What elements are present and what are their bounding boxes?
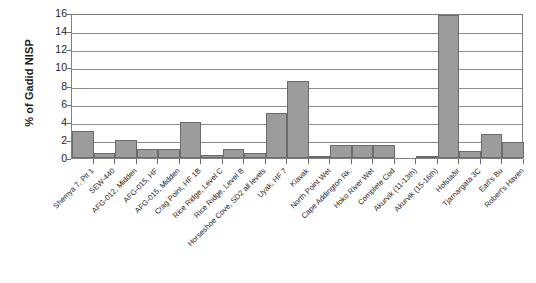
x-tick-mark bbox=[93, 159, 94, 164]
bar bbox=[180, 122, 202, 158]
x-tick-mark bbox=[308, 159, 309, 164]
x-tick-mark bbox=[523, 159, 524, 164]
x-tick-mark bbox=[394, 159, 395, 164]
bar bbox=[115, 140, 137, 158]
bar bbox=[481, 134, 503, 158]
bar bbox=[72, 131, 94, 158]
x-tick-mark bbox=[351, 159, 352, 164]
bar bbox=[502, 142, 524, 158]
bar-chart: % of Gadid NISP 1614121086420 Shemya 7, … bbox=[0, 0, 536, 283]
y-tick-label: 6 bbox=[27, 99, 67, 110]
bar bbox=[94, 153, 116, 158]
bar bbox=[266, 113, 288, 158]
x-tick-mark bbox=[157, 159, 158, 164]
x-tick-mark bbox=[437, 159, 438, 164]
bar bbox=[352, 145, 374, 158]
bars-layer bbox=[72, 15, 522, 158]
x-tick-mark bbox=[114, 159, 115, 164]
bar bbox=[201, 155, 223, 158]
y-tick-label: 12 bbox=[27, 44, 67, 55]
x-tick-mark bbox=[329, 159, 330, 164]
y-tick-label: 0 bbox=[27, 153, 67, 164]
x-tick-mark bbox=[200, 159, 201, 164]
y-tick-label: 2 bbox=[27, 135, 67, 146]
bar bbox=[330, 145, 352, 158]
x-tick-mark bbox=[179, 159, 180, 164]
bar bbox=[438, 15, 460, 158]
y-tick-label: 8 bbox=[27, 81, 67, 92]
bar bbox=[309, 156, 331, 158]
x-tick-mark bbox=[458, 159, 459, 164]
bar bbox=[223, 149, 245, 158]
x-tick-mark bbox=[372, 159, 373, 164]
bar bbox=[287, 81, 309, 158]
y-tick-label: 14 bbox=[27, 26, 67, 37]
x-tick-mark bbox=[265, 159, 266, 164]
bar bbox=[416, 156, 438, 158]
bar bbox=[373, 145, 395, 158]
bar bbox=[459, 151, 481, 158]
y-tick-label: 10 bbox=[27, 62, 67, 73]
bar bbox=[137, 149, 159, 158]
x-tick-mark bbox=[222, 159, 223, 164]
y-tick-label: 16 bbox=[27, 8, 67, 19]
x-tick-mark bbox=[136, 159, 137, 164]
plot-area bbox=[71, 14, 523, 159]
x-tick-mark bbox=[415, 159, 416, 164]
x-tick-mark bbox=[243, 159, 244, 164]
x-tick-mark bbox=[480, 159, 481, 164]
x-tick-mark bbox=[286, 159, 287, 164]
y-tick-label: 4 bbox=[27, 117, 67, 128]
bar bbox=[244, 153, 266, 158]
bar bbox=[158, 149, 180, 158]
x-tick-mark bbox=[501, 159, 502, 164]
y-tick-mark bbox=[66, 159, 71, 160]
